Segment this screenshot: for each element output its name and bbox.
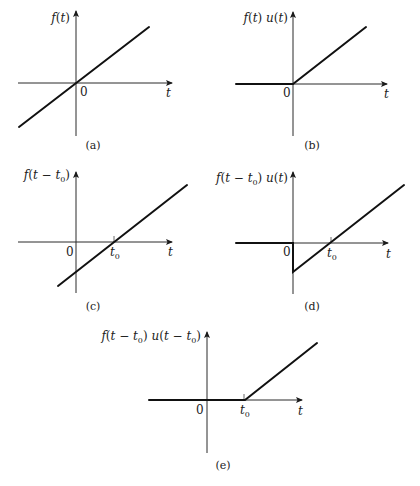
panel-caption: (c) xyxy=(86,300,101,313)
origin-label: 0 xyxy=(196,403,204,417)
panel-a: f(t) 0 t (a) xyxy=(18,11,172,152)
t0-label: t0 xyxy=(327,246,337,262)
x-axis-label: t xyxy=(384,87,389,101)
shifted-ramp-curve xyxy=(58,185,187,286)
x-axis-label: t xyxy=(298,404,303,418)
x-axis-label: t xyxy=(386,247,391,261)
panel-caption: (d) xyxy=(304,300,320,313)
panel-caption: (a) xyxy=(85,139,100,152)
shifted-step-ramp-curve xyxy=(149,343,317,400)
y-axis-label: f(t) u(t) xyxy=(243,11,288,25)
panel-e: f(t − t0) u(t − t0) 0 t0 t (e) xyxy=(100,329,317,472)
y-axis-label: f(t − t0) xyxy=(23,168,70,184)
origin-label: 0 xyxy=(283,86,291,100)
truncated-shifted-ramp-curve xyxy=(236,185,404,272)
y-axis-label: f(t) xyxy=(50,11,70,25)
panel-caption: (e) xyxy=(215,459,230,472)
truncated-ramp-curve xyxy=(236,27,366,84)
x-axis-label: t xyxy=(166,86,171,100)
y-axis-label: f(t − t0) u(t) xyxy=(215,171,288,187)
panel-d: f(t − t0) u(t) 0 t0 t (d) xyxy=(215,171,404,313)
panel-b: f(t) u(t) 0 t (b) xyxy=(236,11,389,152)
t0-label: t0 xyxy=(110,245,120,261)
origin-label: 0 xyxy=(80,85,88,99)
ramp-curve xyxy=(19,27,149,127)
x-axis-label: t xyxy=(168,245,173,259)
signal-shift-figure: f(t) 0 t (a) f(t) u(t) 0 t (b) f(t − t0)… xyxy=(0,0,420,486)
y-axis-label: f(t − t0) u(t − t0) xyxy=(100,329,201,345)
panel-c: f(t − t0) 0 t0 t (c) xyxy=(18,168,187,313)
panel-caption: (b) xyxy=(304,139,320,152)
origin-label: 0 xyxy=(283,245,291,259)
t0-label: t0 xyxy=(240,403,250,419)
origin-label: 0 xyxy=(66,245,74,259)
